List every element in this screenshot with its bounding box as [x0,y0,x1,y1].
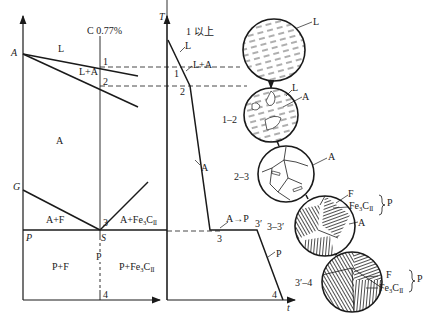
point-g-label: G [13,182,20,192]
phase-diagram [23,0,247,300]
curve-mark-4: 4 [272,290,277,300]
stage-4-austenite: A [358,218,365,228]
region-pearlite-cementite: P+Fe3CⅡ [119,262,155,274]
stage-4-ferrite: F [348,189,354,199]
region-austenite: A [56,136,63,146]
composition-label: C 0.77% [87,26,122,36]
stage-2-liquid: L [292,83,298,93]
stage-3-austenite: A [328,152,335,162]
stage-1-liquid: L [313,17,319,27]
stage-5-cementite: Fe3CⅡ [379,283,403,295]
region-austenite-cementite: A+Fe3CⅡ [120,215,157,227]
mark-1: 1 [103,57,108,67]
region-pearlite-ferrite: P+F [52,262,69,272]
stage-4-pearlite-group: P [387,198,393,208]
region-liquid-austenite: L+A [79,67,98,77]
time-axis-label: t [287,303,290,313]
region-pearlite: P [96,252,102,262]
temperature-axis-label: T [159,12,165,22]
mark-3: 3 [103,218,108,228]
mark-2: 2 [103,77,108,87]
stage-1-label: 1 以上 [186,27,214,37]
stage-3-label: 2–3 [234,172,249,182]
point-s-label: S [101,233,106,243]
curve-liquid: L [185,41,191,51]
stage-5-label: 3′–4 [295,278,312,288]
stage-2-label: 1–2 [222,115,237,125]
curve-mark-3-prime: 3′ [255,219,262,229]
curve-mark-2: 2 [180,87,185,97]
diagram-lines [0,0,436,321]
stage-5-pearlite-group: P [417,274,423,284]
stage-4-label: 3–3′ [267,222,284,232]
point-p-label: P [26,233,32,243]
mark-4: 4 [103,290,108,300]
curve-mark-3: 3 [217,234,222,244]
stage-4-cementite: Fe3CⅡ [349,201,373,213]
curve-mark-1: 1 [174,69,179,79]
region-liquid: L [58,44,64,54]
stage-2-austenite: A [302,92,309,102]
curve-liquid-austenite: L+A [193,60,212,70]
curve-transformation: A→P [226,214,249,224]
stage-5-ferrite: F [386,270,392,280]
curve-austenite: A [201,163,208,173]
curve-pearlite: P [276,249,282,259]
point-a-label: A [11,48,17,58]
region-austenite-ferrite: A+F [46,215,64,225]
